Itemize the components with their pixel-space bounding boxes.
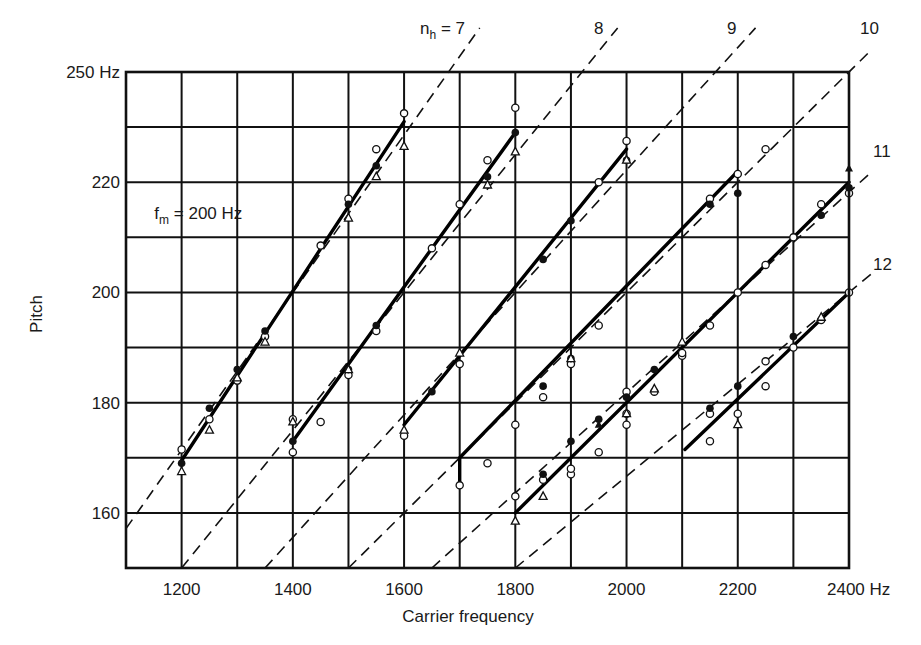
open-circle-marker [706,322,713,329]
filled-circle-marker [372,162,380,170]
open-circle-marker [595,449,602,456]
open-circle-marker [456,201,463,208]
y-axis-tick-labels: 160180200220250 Hz [66,63,120,523]
open-triangle-marker [400,142,408,150]
open-circle-marker [790,344,797,351]
open-circle-marker [456,360,463,367]
open-circle-marker [512,421,519,428]
open-circle-marker [512,104,519,111]
open-circle-marker [484,460,491,467]
x-tick-label: 1200 [163,580,201,599]
filled-circle-marker [539,471,547,479]
x-tick-label: 1600 [385,580,423,599]
y-tick-label: 160 [92,504,120,523]
filled-circle-marker [512,129,520,137]
open-circle-marker [567,465,574,472]
open-circle-marker [289,449,296,456]
open-circle-marker [762,146,769,153]
open-circle-marker [400,110,407,117]
filled-circle-marker [817,211,825,219]
open-circle-marker [762,358,769,365]
filled-circle-marker [623,393,631,401]
open-circle-marker [706,438,713,445]
fitted-segment-6 [685,292,849,449]
open-triangle-marker [734,420,742,428]
x-tick-label: 2000 [608,580,646,599]
open-circle-marker [540,394,547,401]
harmonic-number-labels: nh = 789101112 [420,19,892,274]
filled-circle-marker [706,200,714,208]
y-axis-label: Pitch [27,295,46,333]
filled-circle-marker [539,256,547,264]
open-circle-marker [178,446,185,453]
filled-circle-marker [651,366,659,374]
filled-circle-marker [345,200,353,208]
x-tick-label: 2200 [719,580,757,599]
filled-circle-marker [734,189,742,197]
open-triangle-marker [372,172,380,180]
open-circle-marker [317,242,324,249]
harmonic-line-n8 [182,28,618,568]
open-triangle-marker [205,426,213,434]
filled-circle-marker [706,404,714,412]
open-circle-marker [595,179,602,186]
open-circle-marker [512,493,519,500]
filled-circle-marker [428,388,436,396]
open-circle-marker [790,234,797,241]
filled-circle-marker [261,327,269,335]
open-circle-marker [734,170,741,177]
x-tick-label: 1400 [274,580,312,599]
filled-circle-marker [790,333,798,341]
open-circle-marker [484,157,491,164]
x-axis-tick-labels: 1200140016001800200022002400 Hz [163,580,891,599]
open-circle-marker [623,421,630,428]
filled-circle-marker [567,437,575,445]
open-triangle-marker [511,517,519,525]
x-axis-label: Carrier frequency [402,607,534,626]
x-tick-label: 2400 Hz [827,580,890,599]
filled-circle-marker [289,437,297,445]
harmonic-label-n12: 12 [873,255,892,274]
open-circle-marker [734,289,741,296]
open-circle-marker [818,201,825,208]
modulation-frequency-annotation: fm = 200 Hz [154,204,242,227]
open-triangle-marker [678,338,686,346]
open-circle-marker [317,418,324,425]
filled-circle-marker [539,382,547,390]
open-triangle-marker [650,384,658,392]
harmonic-label-n11: 11 [873,142,891,161]
x-tick-label: 1800 [496,580,534,599]
filled-circle-marker [567,217,575,225]
open-circle-marker [734,410,741,417]
harmonic-label-n10: 10 [860,19,879,38]
open-circle-marker [428,245,435,252]
open-triangle-marker [539,492,547,500]
pitch-vs-carrier-chart: 1200140016001800200022002400 Hz 16018020… [0,0,921,645]
y-tick-label: 180 [92,394,120,413]
filled-circle-marker [206,404,214,412]
open-circle-marker [623,137,630,144]
open-circle-marker [762,383,769,390]
y-tick-label: 200 [92,283,120,302]
open-triangle-marker [178,467,186,475]
harmonic-label-n9: 9 [727,19,736,38]
filled-circle-marker [372,322,380,330]
y-tick-label: 220 [92,173,120,192]
open-circle-marker [206,416,213,423]
harmonic-label-n8: 8 [594,19,603,38]
open-circle-marker [595,322,602,329]
open-circle-marker [456,482,463,489]
y-tick-label: 250 Hz [66,63,120,82]
open-circle-marker [762,261,769,268]
open-triangle-marker [400,426,408,434]
open-triangle-marker [511,147,519,155]
filled-circle-marker [734,382,742,390]
open-circle-marker [373,146,380,153]
open-circle-marker [679,349,686,356]
harmonic-label-n7: nh = 7 [420,19,465,42]
